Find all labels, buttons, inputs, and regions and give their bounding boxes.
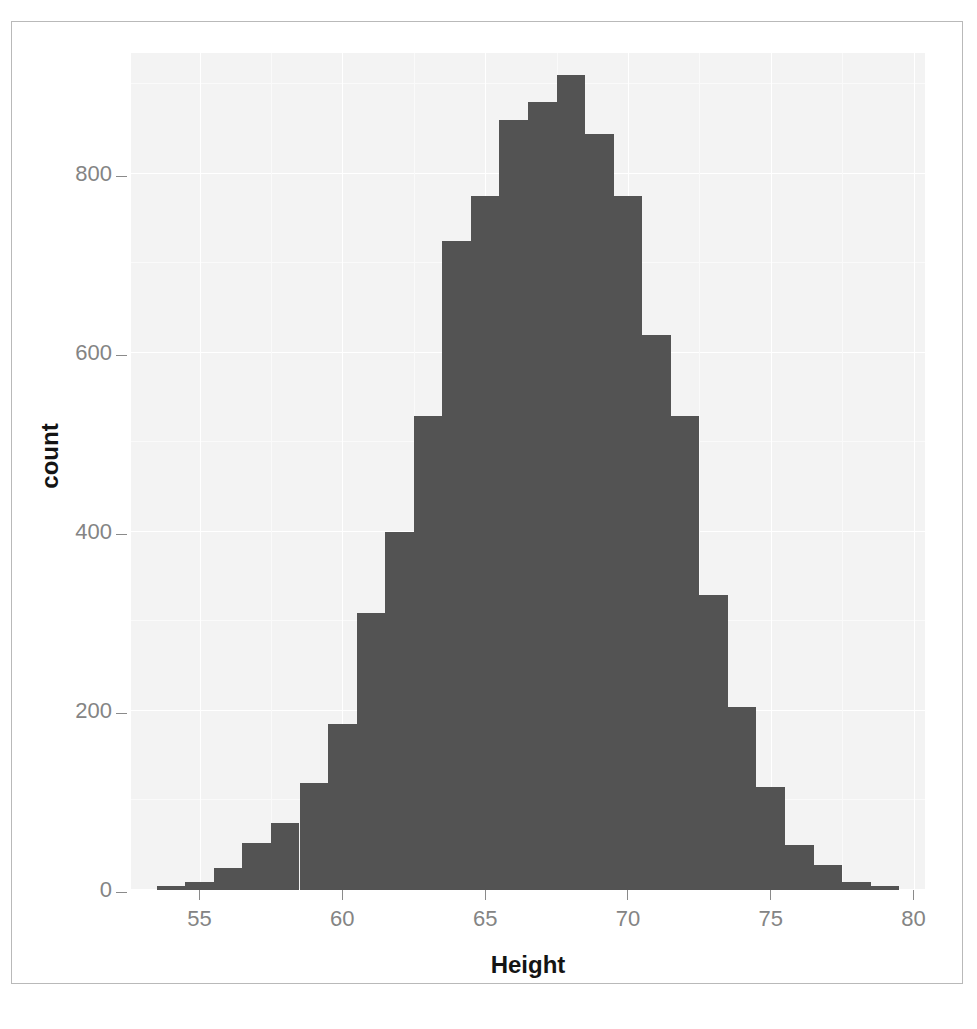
- y-tick-label: 0: [100, 877, 116, 902]
- y-tick-800: 800: [75, 165, 131, 183]
- histogram-bar: [728, 707, 757, 891]
- y-axis-title: count: [36, 386, 64, 526]
- histogram-bar: [385, 532, 414, 890]
- histogram-bar: [528, 102, 557, 890]
- y-tick-200: 200: [75, 702, 131, 720]
- histogram-bar: [357, 613, 386, 891]
- x-tick-80: 80: [884, 890, 944, 932]
- histogram-bar: [499, 120, 528, 890]
- y-tick-label: 400: [75, 519, 116, 544]
- y-tick-400: 400: [75, 523, 131, 541]
- x-tick-mark: [485, 890, 486, 900]
- histogram-bar: [471, 196, 500, 890]
- x-tick-55: 55: [170, 890, 230, 932]
- x-tick-65: 65: [455, 890, 515, 932]
- x-tick-label: 55: [170, 906, 230, 932]
- x-tick-mark: [199, 890, 200, 900]
- x-tick-label: 75: [741, 906, 801, 932]
- histogram-bar: [671, 416, 700, 890]
- histogram-bar: [214, 868, 243, 890]
- histogram-bar: [442, 241, 471, 890]
- x-axis: 556065707580: [131, 890, 925, 960]
- y-tick-mark: [116, 892, 127, 893]
- y-tick-label: 200: [75, 698, 116, 723]
- y-tick-label: 800: [75, 161, 116, 186]
- x-tick-mark: [342, 890, 343, 900]
- x-tick-60: 60: [312, 890, 372, 932]
- histogram-bar: [185, 882, 214, 890]
- x-tick-mark: [913, 890, 914, 900]
- y-tick-mark: [116, 176, 127, 177]
- x-tick-mark: [627, 890, 628, 900]
- histogram-bars: [131, 53, 925, 890]
- histogram-bar: [414, 416, 443, 890]
- y-tick-mark: [116, 355, 127, 356]
- histogram-bar: [585, 134, 614, 890]
- x-tick-mark: [770, 890, 771, 900]
- histogram-bar: [328, 724, 357, 890]
- histogram-bar: [814, 865, 843, 890]
- figure-frame: 0200400600800 556065707580 Height count: [11, 21, 963, 984]
- y-tick-600: 600: [75, 344, 131, 362]
- histogram-bar: [756, 787, 785, 890]
- y-axis: 0200400600800: [12, 53, 131, 890]
- x-tick-label: 70: [598, 906, 658, 932]
- histogram-bar: [842, 882, 871, 890]
- x-tick-75: 75: [741, 890, 801, 932]
- y-tick-label: 600: [75, 340, 116, 365]
- histogram-bar: [300, 783, 329, 890]
- x-tick-70: 70: [598, 890, 658, 932]
- histogram-bar: [614, 196, 643, 890]
- histogram-bar: [271, 823, 300, 890]
- histogram-bar: [785, 845, 814, 890]
- plot-panel: [131, 53, 925, 890]
- histogram-bar: [642, 335, 671, 890]
- y-tick-mark: [116, 534, 127, 535]
- x-tick-label: 60: [312, 906, 372, 932]
- x-tick-label: 80: [884, 906, 944, 932]
- x-axis-title: Height: [131, 951, 925, 979]
- histogram-bar: [242, 843, 271, 890]
- x-tick-label: 65: [455, 906, 515, 932]
- histogram-bar: [699, 595, 728, 890]
- y-tick-0: 0: [100, 881, 131, 899]
- y-tick-mark: [116, 713, 127, 714]
- histogram-bar: [557, 75, 586, 890]
